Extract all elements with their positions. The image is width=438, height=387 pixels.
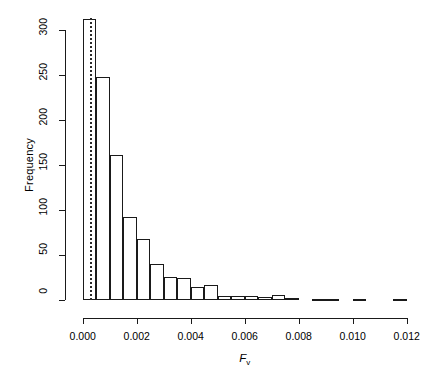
y-axis-tick <box>59 75 65 76</box>
histogram-bar <box>231 296 245 301</box>
x-axis-title-subscript: v <box>246 358 250 367</box>
x-axis-tick <box>299 318 300 324</box>
histogram-bar <box>164 277 178 300</box>
plot-area: 0501001502002503000.0000.0020.0040.0060.… <box>0 0 438 387</box>
histogram-bar <box>137 239 151 300</box>
y-axis-tick-label: 300 <box>37 18 49 42</box>
y-axis-tick-label: 50 <box>37 243 49 267</box>
histogram-bar <box>123 217 137 300</box>
y-axis-tick <box>59 165 65 166</box>
histogram-bar <box>393 299 407 301</box>
histogram-bar <box>272 295 286 300</box>
y-axis-tick <box>59 210 65 211</box>
x-axis-tick-label: 0.010 <box>340 330 366 342</box>
histogram-bar <box>353 299 367 301</box>
y-axis-tick <box>59 255 65 256</box>
histogram-figure: 0501001502002503000.0000.0020.0040.0060.… <box>0 0 438 387</box>
y-axis-line <box>65 30 66 300</box>
y-axis-tick-label: 100 <box>37 198 49 222</box>
x-axis-tick <box>353 318 354 324</box>
histogram-bar <box>258 297 272 300</box>
x-axis-title: Fv <box>239 352 250 367</box>
x-axis-tick <box>245 318 246 324</box>
y-axis-tick-label: 0 <box>37 288 49 312</box>
x-axis-tick-label: 0.002 <box>124 330 150 342</box>
y-axis-tick <box>59 30 65 31</box>
x-axis-tick <box>191 318 192 324</box>
histogram-bar <box>191 287 205 300</box>
y-axis-tick-label: 250 <box>37 63 49 87</box>
x-axis-tick-label: 0.008 <box>286 330 312 342</box>
x-axis-tick <box>407 318 408 324</box>
x-axis-tick-label: 0.000 <box>70 330 96 342</box>
y-axis-tick <box>59 300 65 301</box>
x-axis-tick-label: 0.004 <box>178 330 204 342</box>
x-axis-tick-label: 0.006 <box>232 330 258 342</box>
x-axis-tick <box>137 318 138 324</box>
reference-line <box>90 18 92 300</box>
y-axis-tick <box>59 120 65 121</box>
y-axis-title: Frequency <box>23 138 35 192</box>
histogram-bar <box>177 278 191 300</box>
x-axis-title-base: F <box>239 352 246 364</box>
histogram-bar <box>96 77 110 300</box>
histogram-bar <box>285 298 299 300</box>
histogram-bar <box>218 296 232 300</box>
histogram-bar <box>326 299 340 301</box>
histogram-bar <box>110 155 124 300</box>
histogram-bar <box>245 296 259 301</box>
histogram-bar <box>150 264 164 300</box>
histogram-bar <box>312 299 326 301</box>
x-axis-tick-label: 0.012 <box>394 330 420 342</box>
y-axis-tick-label: 150 <box>37 153 49 177</box>
x-axis-tick <box>83 318 84 324</box>
y-axis-tick-label: 200 <box>37 108 49 132</box>
histogram-bar <box>204 285 218 300</box>
